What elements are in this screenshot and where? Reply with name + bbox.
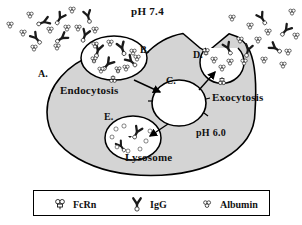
exocytic-vesicle-d	[200, 42, 244, 85]
albumin-icon	[199, 195, 215, 213]
extracellular-molecules-left	[7, 7, 98, 51]
legend-label-fcrn: FcRn	[73, 199, 96, 210]
ph-inside-label: pH 6.0	[196, 128, 226, 138]
panel-label-c: C.	[166, 76, 176, 86]
panel-label-b: B.	[140, 45, 149, 55]
panel-label-a: A.	[38, 69, 48, 79]
fcrn-icon	[52, 195, 68, 213]
lysosome-label: Lysosome	[125, 152, 172, 163]
ph-outside-label: pH 7.4	[131, 6, 164, 17]
legend-label-albumin: Albumin	[220, 199, 258, 210]
legend-item-igg: IgG	[129, 191, 167, 217]
igg-icon	[129, 195, 145, 213]
legend-label-igg: IgG	[150, 199, 167, 210]
legend-item-albumin: Albumin	[199, 191, 258, 217]
panel-label-d: D.	[193, 50, 203, 60]
endocytosis-label: Endocytosis	[60, 85, 118, 96]
panel-label-e: E.	[104, 112, 113, 122]
legend-item-fcrn: FcRn	[52, 191, 96, 217]
exocytosis-label: Exocytosis	[212, 92, 264, 103]
legend: FcRn IgG Albumin	[33, 190, 270, 216]
